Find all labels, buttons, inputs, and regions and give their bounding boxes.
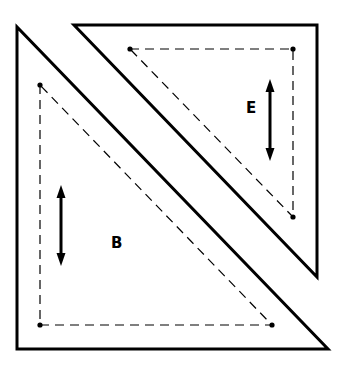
- piece-b-corner-dot-bottom-left: [37, 322, 42, 327]
- quilt-template-diagram: B E: [0, 0, 338, 366]
- piece-b-corner-dot-bottom-right: [269, 322, 274, 327]
- piece-b-corner-dot-top: [37, 82, 42, 87]
- piece-e-label: E: [246, 99, 256, 117]
- piece-e-corner-dot-top-right: [290, 46, 295, 51]
- piece-e-corner-dot-bottom-right: [290, 214, 295, 219]
- piece-b-label: B: [111, 234, 122, 252]
- piece-e-corner-dot-top-left: [127, 46, 132, 51]
